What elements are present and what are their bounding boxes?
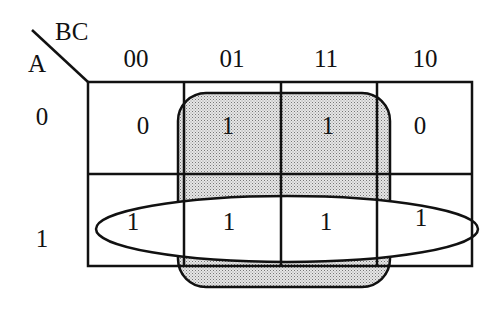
cell-0-10: 0: [414, 112, 427, 139]
column-header-00: 00: [124, 45, 149, 72]
cell-0-01: 1: [222, 112, 235, 139]
karnaugh-map: BC A 00 01 11 10 0 1 0 1 1 0 1 1 1 1: [0, 0, 501, 309]
row-header-1: 1: [36, 225, 49, 252]
column-header-01: 01: [220, 45, 245, 72]
column-header-10: 10: [413, 45, 438, 72]
cell-1-10: 1: [415, 204, 428, 231]
column-header-11: 11: [314, 45, 338, 72]
cell-1-01: 1: [223, 208, 236, 235]
row-header-0: 0: [36, 103, 49, 130]
cell-1-00: 1: [127, 208, 140, 235]
cell-0-00: 0: [137, 112, 150, 139]
cell-0-11: 1: [322, 112, 335, 139]
row-variable-label: A: [28, 50, 46, 77]
cell-1-11: 1: [320, 208, 333, 235]
column-variable-label: BC: [55, 18, 88, 45]
